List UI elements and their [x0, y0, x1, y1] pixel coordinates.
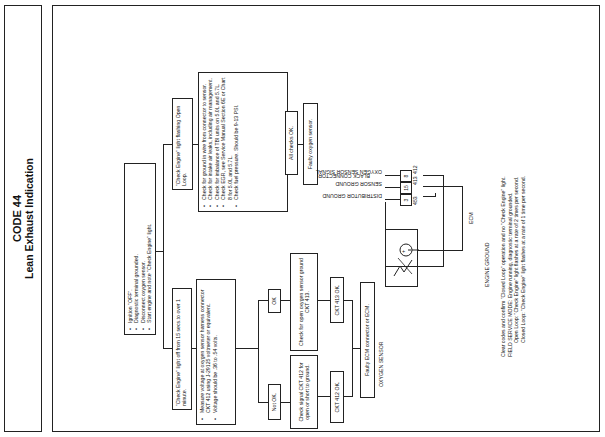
pin-signal-label: SENSOR GROUND	[336, 181, 382, 187]
pin-signal-label: OXYGEN SENSOR SIGNAL	[316, 169, 382, 175]
check-item: Check EGR, see Service Manual Section 6E…	[220, 76, 233, 200]
wire-453	[423, 196, 435, 197]
check-item: Check fuel pressure. Should be 9-13 PSI.	[233, 76, 239, 200]
connector-pin: 3	[400, 194, 412, 206]
ckt413-ok-box: CKT 413 OK.	[330, 277, 344, 323]
code-title: CODE 44	[11, 6, 23, 431]
wire-413	[423, 186, 463, 187]
measure-step: Measure voltage at oxygen sensor harness…	[199, 283, 212, 413]
start-steps-box: Ignition "OFF". Diagnostic terminal grou…	[124, 163, 156, 335]
page-title: Lean Exhaust Indication	[23, 6, 35, 431]
oxygen-sensor-label: OXYGEN SENSOR	[378, 341, 384, 387]
checks-box: Check for ground in wire from connector …	[198, 72, 288, 212]
ok-box: OK	[268, 289, 281, 313]
check-ckt413-box: Check for open oxygen sensor ground CKT …	[290, 253, 318, 351]
pin-signal-label: DISTRIBUTOR GROUND	[322, 193, 382, 199]
wire-number: 413	[412, 176, 418, 185]
light-flashing-box: "Check Engine" light flashing Open Loop.	[172, 98, 193, 190]
oxygen-sensor-symbol: +	[385, 229, 418, 287]
ecm-label: ECM	[468, 212, 474, 224]
start-step: Start engine and note "Check Engine" lig…	[146, 167, 152, 323]
engine-ground-label: ENGINE GROUND	[484, 243, 490, 287]
wire-number: 412	[412, 165, 418, 174]
measure-voltage-box: Measure voltage at oxygen sensor harness…	[196, 279, 236, 425]
ckt412-ok-box: CKT 412 OK.	[330, 371, 344, 423]
note-line: Closed Loop: "Check Engine" light flashe…	[520, 57, 527, 357]
wire-412	[423, 175, 443, 176]
check-ckt412-box: Check signal CKT 412 for open or short t…	[290, 355, 318, 429]
title-panel: CODE 44 Lean Exhaust Indication	[4, 5, 42, 432]
wire-number: 453	[412, 196, 418, 205]
all-checks-ok-box: All checks OK.	[285, 111, 298, 175]
connector-pin: 8	[400, 170, 412, 182]
rotated-page: CODE 44 Lean Exhaust Indication Ignition…	[0, 0, 605, 437]
sensor-icon: +	[386, 228, 419, 286]
measure-step: Voltage should be .36 to .54 volts.	[212, 283, 218, 413]
faulty-ecm-box: Faulty ECM connector or ECM.	[360, 282, 375, 398]
light-off-box: "Check Engine" light off from 15 secs.to…	[172, 288, 192, 410]
svg-text:+: +	[400, 250, 406, 253]
connector-pin: 15	[400, 182, 412, 194]
notes: Clear codes and confirm "Closed Loop" op…	[500, 57, 526, 357]
not-ok-box: Not OK.	[268, 384, 281, 420]
